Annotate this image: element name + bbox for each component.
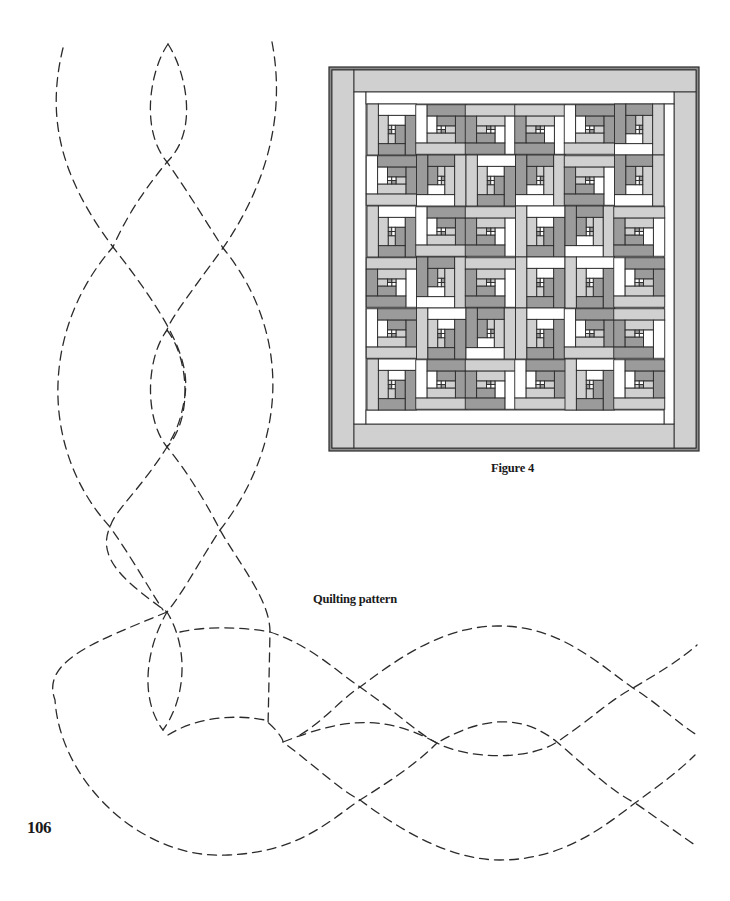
log-cabin-block bbox=[466, 308, 516, 359]
log-cabin-block bbox=[416, 360, 467, 410]
cable-strand bbox=[300, 626, 697, 735]
cable-strand bbox=[167, 330, 185, 447]
log-cabin-block bbox=[565, 359, 615, 410]
log-cabin-block bbox=[565, 206, 615, 257]
quilt-figure bbox=[328, 66, 700, 452]
cable-strand bbox=[283, 722, 695, 845]
log-cabin-block bbox=[515, 360, 566, 410]
log-cabin-block bbox=[614, 207, 665, 257]
log-cabin-block bbox=[465, 360, 516, 410]
log-cabin-block bbox=[516, 308, 566, 359]
log-cabin-block bbox=[516, 206, 566, 257]
log-cabin-block bbox=[565, 257, 615, 308]
log-cabin-block bbox=[366, 258, 417, 308]
log-cabin-block bbox=[516, 155, 566, 206]
log-cabin-block bbox=[417, 308, 467, 359]
cable-strand bbox=[168, 717, 695, 860]
log-cabin-block bbox=[615, 104, 665, 155]
log-cabin-block bbox=[564, 309, 615, 359]
log-cabin-block bbox=[564, 156, 615, 206]
log-cabin-block bbox=[564, 105, 615, 155]
cable-strand bbox=[148, 44, 273, 730]
cable-strand bbox=[58, 44, 187, 610]
log-cabin-block bbox=[367, 359, 417, 410]
log-cabin-block bbox=[614, 360, 665, 410]
horizontal-cable-dashed-lines bbox=[168, 626, 697, 860]
log-cabin-block bbox=[417, 155, 467, 206]
log-cabin-block bbox=[465, 105, 516, 155]
log-cabin-block bbox=[367, 206, 417, 257]
log-cabin-block bbox=[614, 258, 665, 308]
log-cabin-block bbox=[614, 309, 665, 359]
page-number: 106 bbox=[27, 818, 51, 838]
log-cabin-block bbox=[465, 258, 516, 308]
log-cabin-block bbox=[417, 257, 467, 308]
log-cabin-block bbox=[516, 257, 566, 308]
log-cabin-block bbox=[615, 155, 665, 206]
cable-strand bbox=[53, 612, 437, 855]
quilting-pattern-caption: Quilting pattern bbox=[313, 592, 397, 607]
cable-strand bbox=[56, 48, 186, 730]
log-cabin-block bbox=[515, 105, 566, 155]
cable-strand bbox=[180, 628, 697, 756]
cable-strand bbox=[151, 42, 277, 727]
figure-caption: Figure 4 bbox=[491, 461, 534, 476]
log-cabin-block bbox=[416, 105, 467, 155]
log-cabin-block bbox=[416, 207, 467, 257]
log-cabin-block bbox=[466, 155, 516, 206]
log-cabin-block bbox=[367, 104, 417, 155]
log-cabin-block bbox=[366, 156, 417, 206]
log-cabin-block bbox=[465, 207, 516, 257]
log-cabin-block bbox=[366, 309, 417, 359]
